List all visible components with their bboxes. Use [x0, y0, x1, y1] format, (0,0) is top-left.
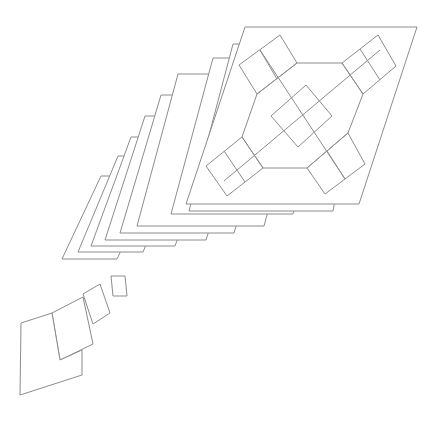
scattered-shapes — [20, 276, 127, 395]
diagram-canvas — [0, 0, 439, 422]
small-diamond — [111, 276, 127, 296]
layered-parallelogram-diagram — [0, 0, 439, 422]
